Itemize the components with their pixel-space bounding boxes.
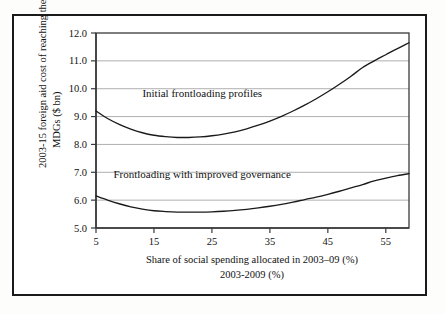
y-tick-label-7.0: 7.0 <box>74 167 87 178</box>
y-tick-label-5.0: 5.0 <box>74 223 87 234</box>
x-tick-label-45: 45 <box>323 236 334 247</box>
x-tick-label-55: 55 <box>381 236 392 247</box>
x-axis-title-line2: 2003-2009 (%) <box>220 269 284 281</box>
figure-container: 5.06.07.08.09.010.011.012.0 51525354555 … <box>0 0 445 314</box>
series-group <box>96 43 409 212</box>
x-axis-tick-group: 51525354555 <box>93 228 391 247</box>
x-tick-label-5: 5 <box>93 236 98 247</box>
y-tick-label-10.0: 10.0 <box>69 83 87 94</box>
x-axis-title-line1: Share of social spending allocated in 20… <box>146 254 358 266</box>
series-annotation-initial-frontloading-profiles: Initial frontloading profiles <box>142 87 262 99</box>
y-axis-title-line1: 2003-15 foreign aid cost of reaching the <box>37 0 48 168</box>
y-tick-label-11.0: 11.0 <box>69 55 87 66</box>
y-tick-label-12.0: 12.0 <box>69 28 87 39</box>
y-tick-label-6.0: 6.0 <box>74 195 87 206</box>
x-tick-label-25: 25 <box>207 236 218 247</box>
series-annotation-frontloading-with-improved-governance: Frontloading with improved governance <box>113 168 291 180</box>
x-tick-label-35: 35 <box>265 236 276 247</box>
y-axis-title-line2: MDGs ($ bn) <box>51 91 63 148</box>
x-tick-label-15: 15 <box>149 236 160 247</box>
y-tick-label-9.0: 9.0 <box>74 111 87 122</box>
plot-area-border <box>96 33 409 228</box>
chart-canvas: 5.06.07.08.09.010.011.012.0 51525354555 … <box>0 0 445 314</box>
y-axis-tick-group: 5.06.07.08.09.010.011.012.0 <box>69 28 96 234</box>
y-tick-label-8.0: 8.0 <box>74 139 87 150</box>
